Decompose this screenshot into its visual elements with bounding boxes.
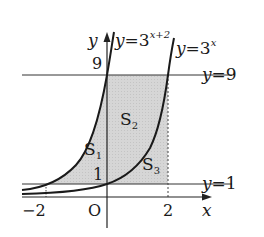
label-exponent: x+2: [150, 29, 170, 40]
x-tick-neg2: −2: [22, 201, 46, 220]
y-tick-9: 9: [92, 54, 102, 73]
exponential-graph-figure: y x O −2 2 1 9 y=3x+2 y=3x y=9 y=1 S1 S2…: [0, 0, 264, 237]
label-y-var: y: [114, 30, 125, 50]
x-tick-2: 2: [163, 201, 173, 220]
label-curve-3-pow-x: y=3x: [175, 37, 217, 58]
label-y-var: y: [175, 38, 186, 58]
label-eq-base: =3: [125, 30, 150, 50]
label-exponent: x: [211, 37, 217, 48]
label-eq-base: =3: [186, 38, 211, 58]
y-axis-label: y: [87, 30, 98, 50]
x-axis-label: x: [202, 200, 212, 220]
origin-label: O: [88, 201, 101, 220]
label-curve-3-pow-x-plus-2: y=3x+2: [114, 29, 170, 50]
label-line-y-1: y=1: [201, 173, 237, 193]
label-line-y-9: y=9: [201, 64, 237, 84]
y-tick-1: 1: [93, 165, 103, 184]
y-axis-arrow-icon: [104, 32, 111, 42]
